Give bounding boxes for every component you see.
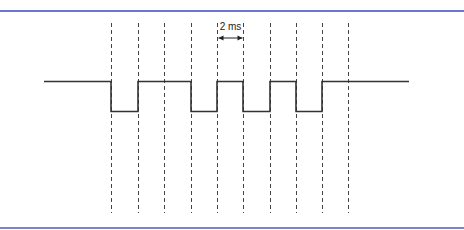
period-annotation: 2 ms — [219, 21, 243, 41]
arrowhead-icon — [238, 36, 243, 41]
signal-line — [44, 82, 409, 112]
arrowhead-icon — [219, 36, 224, 41]
time-gridlines — [112, 23, 349, 213]
timing-diagram: 2 ms — [0, 0, 464, 230]
period-label: 2 ms — [220, 21, 242, 32]
signal-waveform — [44, 82, 409, 112]
